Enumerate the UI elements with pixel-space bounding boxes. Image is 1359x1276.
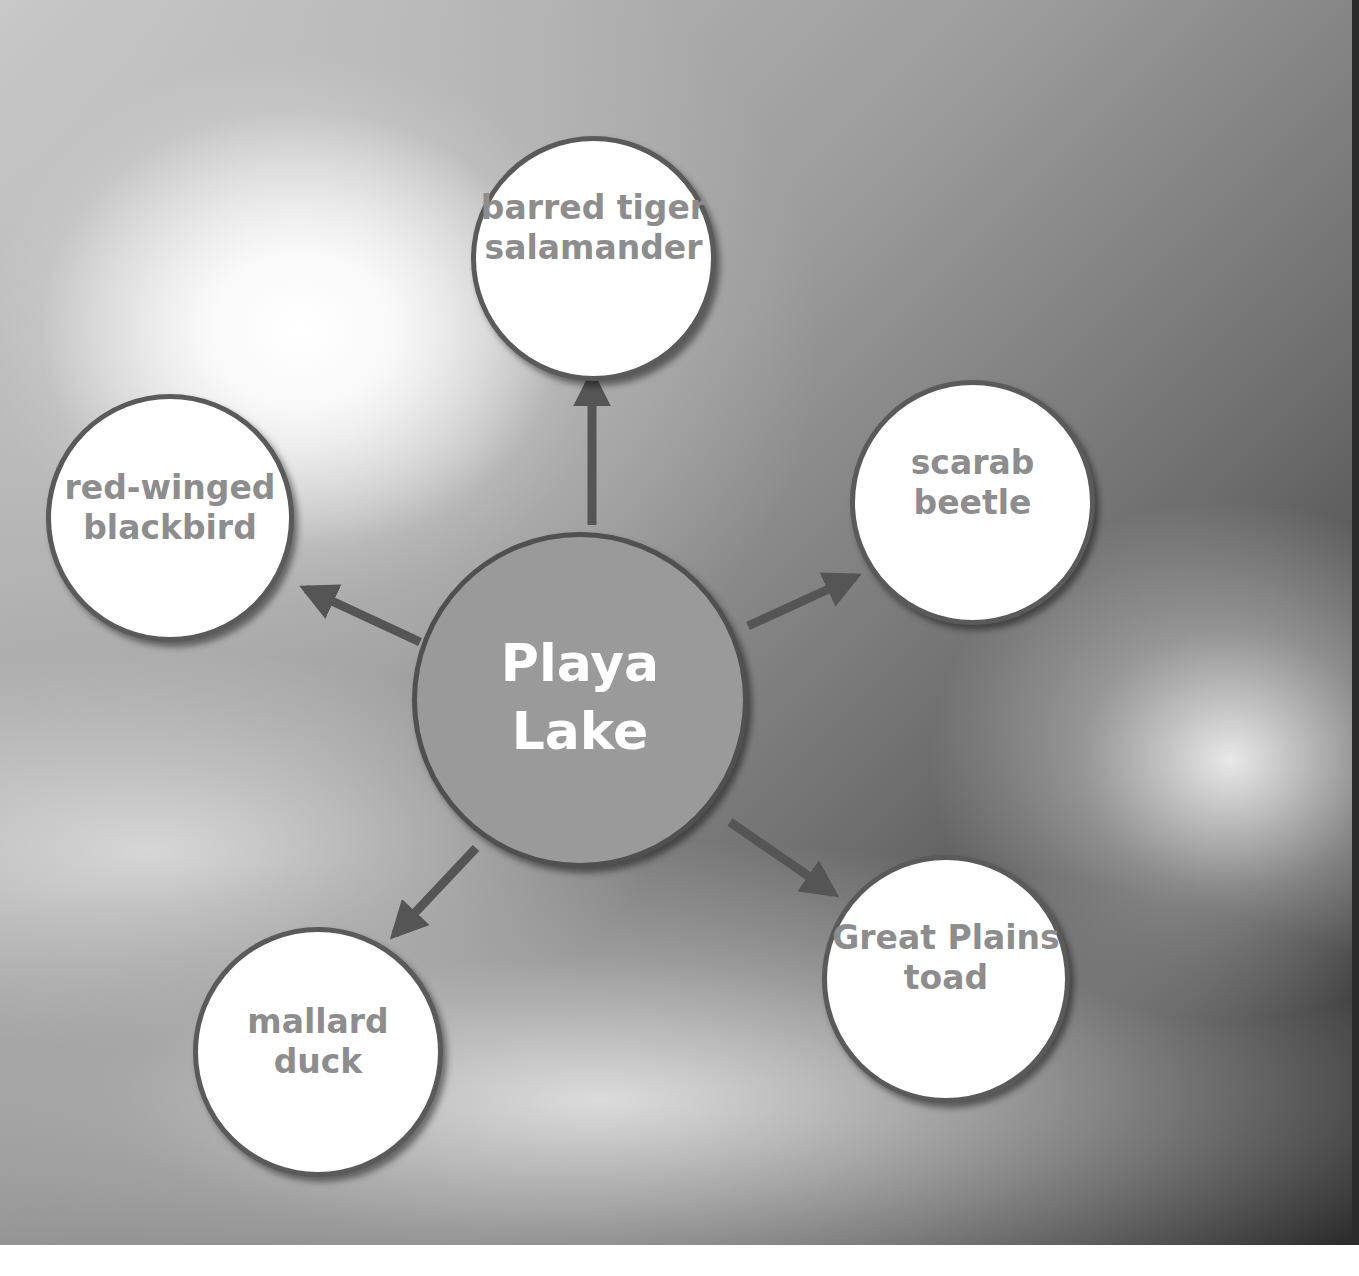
node-mallard-duck: mallard duck	[193, 927, 443, 1177]
center-node-playa-lake: Playa Lake	[412, 532, 748, 868]
arrow-to-left	[306, 589, 420, 642]
arrow-to-right	[748, 577, 855, 626]
node-red-winged-blackbird: red-winged blackbird	[46, 394, 294, 642]
center-label: Playa Lake	[501, 629, 659, 765]
node-label: Great Plains toad	[832, 918, 1060, 998]
node-label: scarab beetle	[911, 443, 1035, 523]
node-great-plains-toad: Great Plains toad	[822, 855, 1070, 1103]
arrow-to-bottom-right	[730, 822, 833, 893]
node-label: mallard duck	[247, 1002, 388, 1082]
node-label: barred tiger salamander	[481, 188, 706, 268]
node-barred-tiger-salamander: barred tiger salamander	[471, 136, 716, 381]
node-scarab-beetle: scarab beetle	[850, 380, 1095, 625]
arrow-to-bottom-left	[395, 848, 476, 934]
node-label: red-winged blackbird	[65, 468, 276, 548]
